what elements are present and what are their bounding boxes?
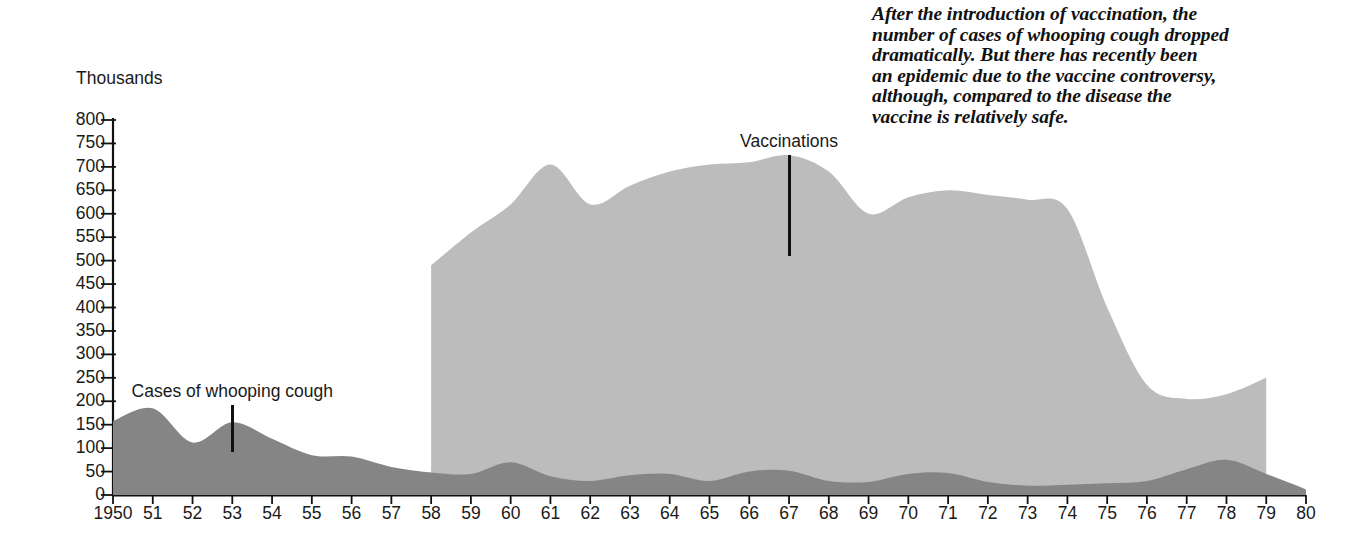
x-axis-tick-label: 56	[342, 505, 361, 523]
x-axis-tick-label: 68	[819, 505, 838, 523]
x-axis-tick-label: 76	[1137, 505, 1156, 523]
y-axis-tick-label: 700	[13, 158, 105, 176]
y-axis-tick-label: 350	[13, 322, 105, 340]
x-axis-tick-label: 79	[1256, 505, 1275, 523]
x-axis-tick-label: 77	[1177, 505, 1196, 523]
x-axis-tick-label: 60	[501, 505, 520, 523]
x-axis-tick-label: 54	[262, 505, 281, 523]
y-axis-tick-label: 250	[13, 369, 105, 387]
y-axis-tick-label: 650	[13, 182, 105, 200]
x-axis-tick-label: 73	[1018, 505, 1037, 523]
x-axis-tick-label: 62	[580, 505, 599, 523]
y-axis-tick-label: 0	[13, 486, 105, 504]
leader-line	[231, 405, 234, 452]
note-line-3: dramatically. But there has recently bee…	[872, 45, 1346, 66]
x-axis-tick-label: 61	[541, 505, 560, 523]
y-axis-tick-label: 300	[13, 346, 105, 364]
x-axis-tick-label: 63	[620, 505, 639, 523]
label-vaccinations: Vaccinations	[740, 133, 838, 151]
x-axis-tick-label: 53	[223, 505, 242, 523]
whooping-cough-vaccination-chart: Thousands 800750700650600550500450400350…	[0, 0, 1352, 560]
x-axis-tick-label: 57	[382, 505, 401, 523]
note-line-6: vaccine is relatively safe.	[872, 107, 1346, 128]
x-axis-tick-label: 75	[1097, 505, 1116, 523]
leader-line	[788, 155, 791, 256]
y-axis-tick-label: 500	[13, 252, 105, 270]
x-axis-tick-label: 59	[461, 505, 480, 523]
y-axis-tick-label: 400	[13, 299, 105, 317]
series-areas	[113, 155, 1306, 495]
area-vaccinations	[431, 155, 1266, 495]
x-axis-tick-label: 70	[899, 505, 918, 523]
y-axis-tick-label: 600	[13, 205, 105, 223]
y-axis-tick-label: 750	[13, 135, 105, 153]
x-axis-tick-label: 74	[1058, 505, 1077, 523]
y-axis-tick-label: 150	[13, 416, 105, 434]
x-axis-tick-label: 69	[859, 505, 878, 523]
x-axis-tick-label: 66	[740, 505, 759, 523]
x-axis-tick-label: 71	[938, 505, 957, 523]
x-axis-tick-label: 52	[183, 505, 202, 523]
note-line-4: an epidemic due to the vaccine controver…	[872, 66, 1346, 87]
y-axis-tick-label: 550	[13, 228, 105, 246]
y-axis-tick-label: 800	[13, 111, 105, 129]
y-axis-tick-label: 50	[13, 463, 105, 481]
x-axis-tick-label: 80	[1296, 505, 1315, 523]
x-axis-tick-label: 64	[660, 505, 679, 523]
x-axis-tick-label: 78	[1217, 505, 1236, 523]
y-axis-tick-label: 200	[13, 393, 105, 411]
x-axis-tick-label: 67	[779, 505, 798, 523]
y-axis-tick-label: 450	[13, 275, 105, 293]
y-axis-tick-label: 100	[13, 439, 105, 457]
x-axis-tick-label: 1950	[94, 505, 133, 523]
x-axis-tick-label: 72	[978, 505, 997, 523]
x-axis-tick-label: 55	[302, 505, 321, 523]
x-axis-tick-label: 51	[143, 505, 162, 523]
note-line-2: number of cases of whooping cough droppe…	[872, 25, 1346, 46]
note-line-5: although, compared to the disease the	[872, 86, 1346, 107]
editorial-note: After the introduction of vaccination, t…	[872, 4, 1346, 128]
label-cases-of-whooping-cough: Cases of whooping cough	[132, 383, 333, 401]
x-axis-tick-label: 65	[700, 505, 719, 523]
note-line-1: After the introduction of vaccination, t…	[872, 4, 1346, 25]
x-axis-tick-label: 58	[421, 505, 440, 523]
